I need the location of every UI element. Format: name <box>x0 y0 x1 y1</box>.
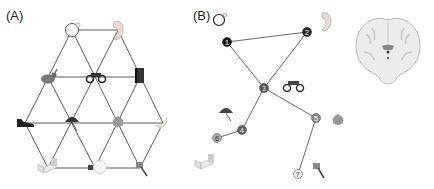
graph-node-2: 2 <box>303 28 312 37</box>
svg-text:4: 4 <box>240 127 244 134</box>
bed-icon <box>38 158 57 173</box>
umbrella-icon <box>219 108 233 121</box>
graph-node-3: 3 <box>260 84 269 93</box>
ear-icon <box>322 13 331 31</box>
graph-node-1: 1 <box>223 38 232 47</box>
panel-b-nodes: 1 2 3 4 5 6 7 <box>213 28 321 179</box>
svg-text:1: 1 <box>225 39 229 46</box>
ring-icon <box>214 13 227 25</box>
bed-icon <box>195 154 214 169</box>
svg-text:5: 5 <box>314 115 318 122</box>
svg-text:3: 3 <box>262 85 266 92</box>
graph-node-4: 4 <box>238 126 247 135</box>
hammer-icon <box>313 163 324 178</box>
motorcycle-icon <box>87 73 106 83</box>
svg-text:2: 2 <box>305 29 309 36</box>
diagram-canvas: 1 2 3 4 5 6 7 <box>0 0 434 189</box>
graph-node-7: 7 <box>294 170 303 179</box>
panel-a-lattice <box>25 30 163 168</box>
ring-icon <box>66 23 81 37</box>
hammer-icon <box>136 162 147 176</box>
brain-mri-image <box>356 18 420 84</box>
panel-b-edges <box>217 32 316 174</box>
graph-node-6: 6 <box>213 134 222 143</box>
svg-text:6: 6 <box>215 135 219 142</box>
panel-a-objects <box>17 21 167 176</box>
leaf-icon <box>333 114 344 125</box>
svg-text:7: 7 <box>296 171 300 178</box>
panel-b-objects <box>195 13 343 178</box>
lightbulb-icon <box>88 161 107 174</box>
leaf-icon <box>113 116 124 127</box>
book-icon <box>135 68 144 83</box>
rabbit-icon <box>41 69 57 84</box>
graph-node-5: 5 <box>312 114 321 123</box>
motorcycle-icon <box>284 81 304 92</box>
